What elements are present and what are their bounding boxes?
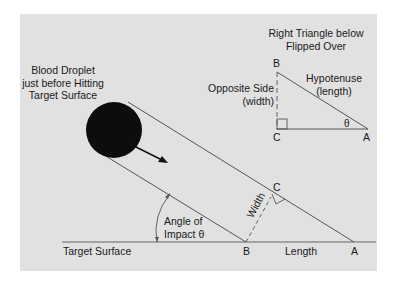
blood-droplet [86,102,142,158]
droplet-label-line-2: just before Hitting [22,77,104,90]
inset-title-line-2: Flipped Over [266,40,366,53]
inset-vertex-a: A [363,131,370,144]
angle-of-impact-label: Angle of Impact θ [164,215,204,240]
inset-right-angle-marker [277,119,287,129]
target-surface-label: Target Surface [63,245,131,258]
inset-opposite-label: Opposite Side (width) [196,82,274,107]
trajectory-upper-line [128,102,354,242]
main-vertex-b: B [243,245,250,258]
inset-angle-theta: θ [344,118,350,131]
hypotenuse-label-line-2: (length) [306,85,362,98]
main-vertex-a: A [351,245,358,258]
inset-title: Right Triangle below Flipped Over [266,27,366,52]
main-vertex-c: C [273,181,281,194]
angle-label-line-1: Angle of [164,215,204,228]
inset-vertex-b: B [273,57,280,70]
length-label: Length [285,245,317,258]
direction-arrow-line [128,143,162,160]
angle-label-line-2: Impact θ [164,228,204,241]
opposite-label-line-2: (width) [196,95,274,108]
droplet-label-line-1: Blood Droplet [22,64,104,77]
arc-arrowhead-bottom-icon [155,237,159,242]
hypotenuse-label-line-1: Hypotenuse [306,72,362,85]
opposite-label-line-1: Opposite Side [196,82,274,95]
droplet-label: Blood Droplet just before Hitting Target… [22,64,104,102]
inset-hypotenuse-label: Hypotenuse (length) [306,72,362,97]
inset-title-line-1: Right Triangle below [266,27,366,40]
inset-vertex-c: C [273,131,281,144]
droplet-label-line-3: Target Surface [22,89,104,102]
